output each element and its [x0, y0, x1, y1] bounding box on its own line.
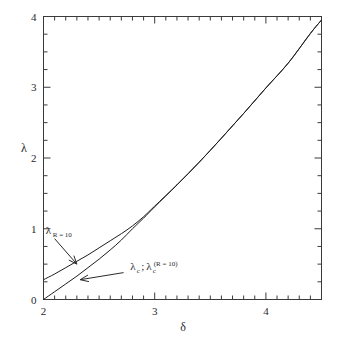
annotation-lambda-c-superscript-2: (R = 10)	[154, 260, 178, 268]
y-tick-label: 3	[31, 81, 37, 93]
y-tick-label: 1	[31, 223, 37, 235]
y-tick-label: 2	[31, 152, 37, 164]
annotation-lambda-c-symbol-2: λ	[146, 260, 152, 272]
y-tick-label: 4	[31, 11, 37, 23]
annotation-lambda-c-subscript-2: c	[153, 267, 156, 275]
x-axis-title: δ	[180, 320, 186, 334]
x-tick-label: 2	[41, 305, 47, 317]
y-tick-label: 0	[31, 294, 37, 306]
annotation-lambda-c-subscript: c	[137, 267, 140, 275]
lambda-vs-delta-plot: 234 01234 δ λ λ R = 10 λ c ; λ c (R = 10…	[0, 0, 339, 347]
x-tick-label: 3	[152, 305, 158, 317]
annotation-lambda-c-separator: ;	[141, 260, 144, 272]
annotation-lambda-r10-symbol: λ	[46, 224, 52, 236]
y-axis-title: λ	[21, 141, 27, 155]
annotation-lambda-c-symbol: λ	[130, 260, 136, 272]
figure-container: 234 01234 δ λ λ R = 10 λ c ; λ c (R = 10…	[0, 0, 339, 347]
x-tick-label: 4	[263, 305, 269, 317]
annotation-lambda-r10-subscript: R = 10	[53, 231, 73, 239]
